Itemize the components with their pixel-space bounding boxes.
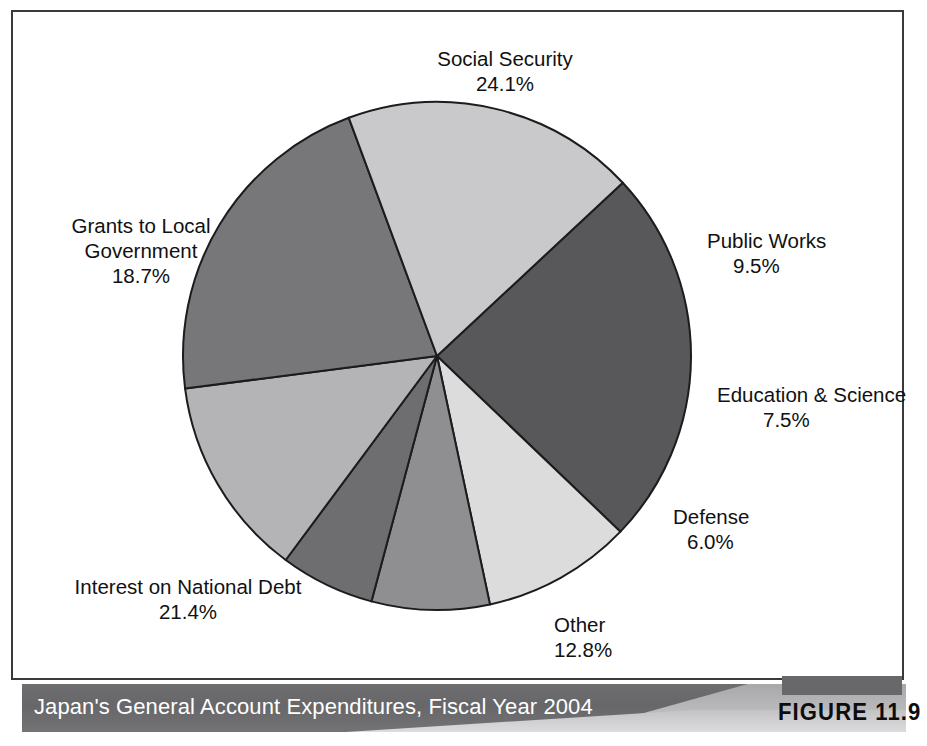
slice-label-interest-on-national-debt-name: Interest on National Debt (75, 575, 302, 598)
slice-label-defense-name: Defense (673, 505, 749, 528)
slice-label-education-science: Education & Science 7.5% (717, 382, 927, 432)
slice-label-other-name: Other (554, 613, 605, 636)
slice-label-social-security: Social Security 24.1% (395, 46, 615, 96)
slice-label-interest-on-national-debt: Interest on National Debt 21.4% (43, 574, 333, 624)
pie-slices-group (183, 102, 691, 610)
slice-label-education-science-name: Education & Science (717, 383, 906, 406)
slice-label-other: Other 12.8% (554, 612, 704, 662)
chart-frame: Social Security 24.1% Public Works 9.5% … (11, 10, 904, 680)
slice-label-public-works: Public Works 9.5% (707, 228, 907, 278)
slice-label-grants-line1: Grants to Local (71, 214, 210, 237)
caption-title: Japan's General Account Expenditures, Fi… (34, 694, 593, 720)
figure-container: Social Security 24.1% Public Works 9.5% … (0, 0, 927, 746)
slice-label-social-security-name: Social Security (437, 47, 573, 70)
figure-number: FIGURE 11.9 (778, 698, 916, 726)
slice-label-grants-pct: 18.7% (41, 263, 241, 288)
slice-label-defense: Defense 6.0% (673, 504, 833, 554)
slice-label-public-works-name: Public Works (707, 229, 826, 252)
slice-label-other-pct: 12.8% (554, 637, 704, 662)
slice-label-defense-pct: 6.0% (673, 529, 833, 554)
slice-label-social-security-pct: 24.1% (395, 71, 615, 96)
caption-band: Japan's General Account Expenditures, Fi… (22, 684, 906, 732)
slice-label-grants-to-local-government: Grants to Local Government 18.7% (41, 213, 241, 288)
slice-label-interest-on-national-debt-pct: 21.4% (43, 599, 333, 624)
slice-label-education-science-pct: 7.5% (717, 407, 927, 432)
slice-label-grants-line2: Government (41, 238, 241, 263)
slice-label-public-works-pct: 9.5% (707, 253, 907, 278)
figure-tag-bar (782, 676, 902, 695)
